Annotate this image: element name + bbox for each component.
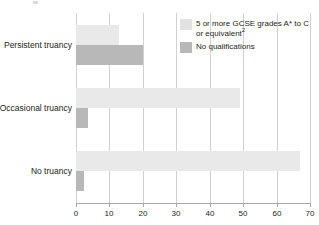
x-tick-label-10: 10 (105, 209, 114, 218)
bar-0-2 (76, 151, 300, 171)
legend-item-gcse: 5 or more GCSE grades A* to Cor equivale… (180, 19, 316, 38)
gridline-20 (143, 13, 144, 203)
x-tick-label-60: 60 (273, 209, 282, 218)
x-tick-mark-70 (310, 203, 311, 207)
x-tick-label-40: 40 (206, 209, 215, 218)
legend-label-gcse: 5 or more GCSE grades A* to Cor equivale… (196, 19, 316, 38)
x-tick-mark-60 (277, 203, 278, 207)
x-tick-label-50: 50 (239, 209, 248, 218)
bar-0-0 (76, 25, 119, 45)
legend-label-gcse-line1: 5 or more GCSE grades A* to C (196, 19, 309, 28)
x-axis-line (76, 203, 311, 204)
legend-swatch-noqual (180, 42, 192, 53)
legend-swatch-gcse (180, 19, 192, 30)
legend-item-noqual: No qualifications (180, 42, 316, 52)
legend-label-gcse-superscript: 2 (242, 27, 245, 33)
category-label-occasional-truancy: Occasional truancy (0, 103, 72, 113)
bar-1-2 (76, 171, 84, 191)
bar-0-1 (76, 88, 240, 108)
x-tick-label-70: 70 (306, 209, 315, 218)
top-edge-artifact (33, 1, 38, 4)
gridline-30 (176, 13, 177, 203)
x-tick-mark-20 (143, 203, 144, 207)
legend-label-noqual: No qualifications (196, 42, 316, 52)
x-tick-mark-0 (76, 203, 77, 207)
x-tick-mark-40 (210, 203, 211, 207)
x-tick-label-0: 0 (74, 209, 78, 218)
x-tick-mark-50 (243, 203, 244, 207)
bar-1-1 (76, 108, 88, 128)
bar-1-0 (76, 45, 143, 65)
legend-label-gcse-line2: or equivalent (196, 29, 242, 38)
category-label-no-truancy: No truancy (31, 166, 72, 176)
x-tick-label-20: 20 (139, 209, 148, 218)
x-tick-mark-10 (109, 203, 110, 207)
category-label-persistent-truancy: Persistent truancy (4, 40, 72, 50)
bar-chart: 010203040506070 Persistent truancyOccasi… (0, 0, 319, 225)
x-tick-label-30: 30 (172, 209, 181, 218)
x-tick-mark-30 (176, 203, 177, 207)
